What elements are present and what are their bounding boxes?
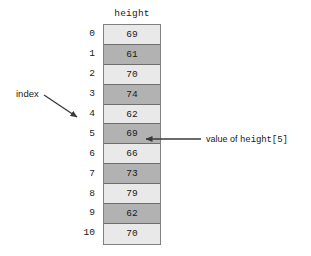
index-label-5: 5 (55, 123, 97, 143)
index-label-0: 0 (55, 24, 97, 44)
index-column: 0 1 2 3 4 5 6 7 8 9 10 (55, 24, 97, 243)
index-label-4: 4 (55, 104, 97, 124)
array-cell-1: 61 (104, 45, 160, 65)
array-header-label: height (103, 8, 161, 19)
index-label-7: 7 (55, 163, 97, 183)
index-label-6: 6 (55, 143, 97, 163)
array-cell-2: 70 (104, 65, 160, 85)
array-cell-8: 79 (104, 184, 160, 204)
index-label-10: 10 (55, 223, 97, 243)
array-box: 69 61 70 74 62 69 66 73 79 62 70 (103, 24, 161, 245)
array-cell-4: 62 (104, 105, 160, 125)
array-cell-3: 74 (104, 85, 160, 105)
value-annotation-label: value of height[5] (206, 133, 288, 146)
array-cell-0: 69 (104, 25, 160, 45)
index-label-8: 8 (55, 183, 97, 203)
array-cell-10: 70 (104, 224, 160, 244)
array-cell-6: 66 (104, 144, 160, 164)
value-annotation-code: height[5] (240, 135, 288, 145)
index-annotation-label: index (16, 88, 39, 99)
index-label-9: 9 (55, 203, 97, 223)
index-label-3: 3 (55, 84, 97, 104)
array-cell-7: 73 (104, 164, 160, 184)
index-label-1: 1 (55, 44, 97, 64)
index-label-2: 2 (55, 64, 97, 84)
value-annotation-prefix: value of (206, 134, 240, 144)
array-cell-5: 69 (104, 124, 160, 144)
array-cell-9: 62 (104, 204, 160, 224)
